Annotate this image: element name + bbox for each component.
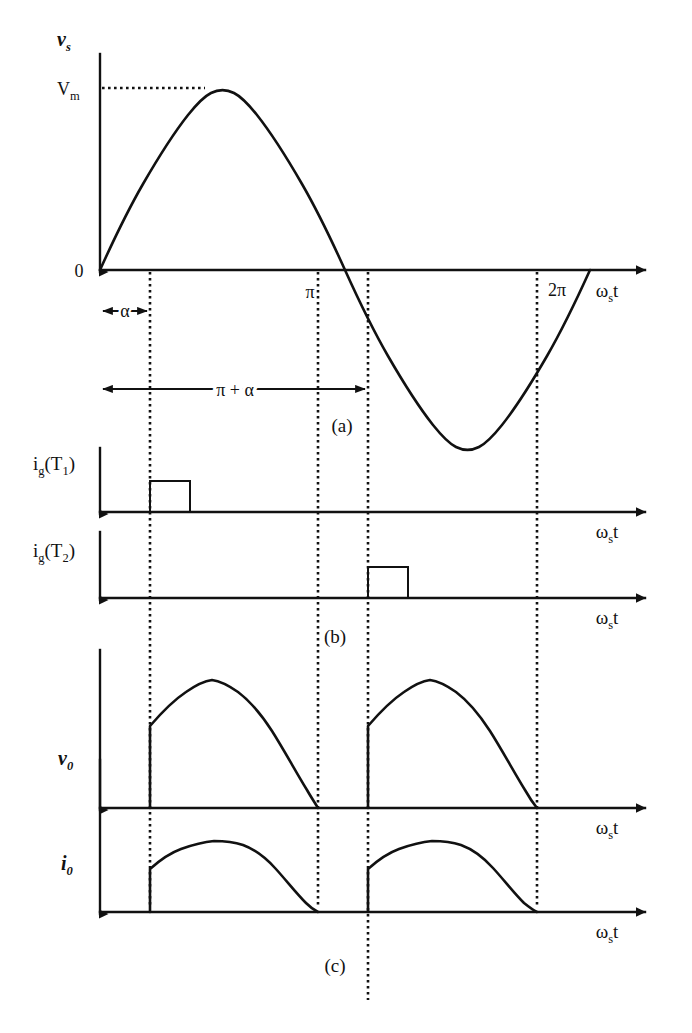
vs-axis-label: vs	[57, 28, 71, 54]
ig-t1-axis-label: ig(T1)	[33, 453, 75, 478]
panel-label-c: (c)	[324, 955, 345, 977]
figure-svg: vs Vm 0 π 2π ωst α π + α (a)	[0, 0, 692, 1033]
output-current-hump-1	[150, 841, 318, 912]
pi-plus-alpha-dimension-label: π + α	[216, 380, 254, 400]
v0-axis-label: v0	[58, 747, 74, 773]
waveform-figure: vs Vm 0 π 2π ωst α π + α (a)	[0, 0, 692, 1033]
pi-tick-label: π	[305, 282, 314, 302]
panel-label-b: (b)	[324, 626, 346, 648]
output-voltage-hump-2	[368, 680, 537, 808]
ig-t2-x-axis-label: ωst	[596, 607, 619, 632]
i0-x-axis-label: ωst	[596, 921, 619, 946]
i0-axis-label: i0	[61, 852, 74, 878]
output-voltage-hump-1	[150, 680, 318, 808]
vs-x-axis-label: ωst	[596, 280, 619, 305]
panel-source-voltage: vs Vm 0 π 2π ωst α π + α (a)	[57, 28, 645, 1000]
two-pi-tick-label: 2π	[548, 280, 566, 300]
vm-tick-label: Vm	[57, 79, 80, 103]
ig-t1-x-axis-label: ωst	[596, 521, 619, 546]
panel-gate-pulses: ig(T1) ωst ig(T2) ωst (b)	[33, 448, 645, 648]
zero-tick-label: 0	[75, 261, 84, 281]
panel-label-a: (a)	[331, 415, 352, 437]
alpha-dimension-label: α	[120, 301, 130, 321]
gate-pulse-t2	[368, 567, 408, 598]
ig-t2-axis-label: ig(T2)	[33, 540, 75, 565]
v0-x-axis-label: ωst	[596, 817, 619, 842]
gate-pulse-t1	[150, 481, 190, 512]
panel-output-waveforms: v0 ωst i0 ωst (c)	[58, 650, 645, 977]
output-current-hump-2	[368, 841, 537, 912]
